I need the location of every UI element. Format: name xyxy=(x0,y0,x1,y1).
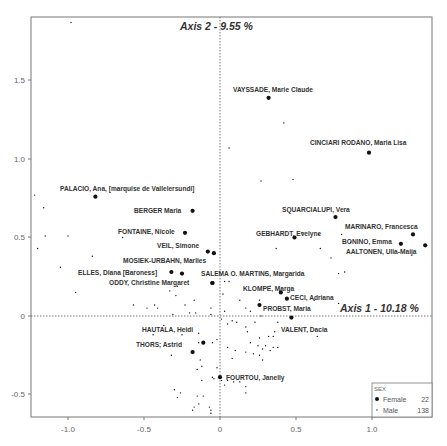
male-point xyxy=(175,295,176,296)
male-point xyxy=(122,237,123,238)
male-point xyxy=(224,311,225,312)
point-label: VEIL, Simone xyxy=(157,242,199,250)
female-point xyxy=(289,316,293,320)
male-point xyxy=(200,359,201,360)
scatter-chart: 1.5 1.0 0.5 0 -0.5 -1.0 -0.5 0 0.5 1.0 A… xyxy=(0,0,447,446)
male-point xyxy=(45,235,46,236)
point-label: FOURTOU, Janelly xyxy=(226,374,285,382)
male-point xyxy=(181,334,182,335)
point-label: VAYSSADE, Marie Claude xyxy=(233,86,313,94)
male-point xyxy=(283,122,284,123)
female-point xyxy=(206,250,210,254)
male-point xyxy=(198,342,199,343)
point-label: BONINO, Emma xyxy=(342,238,392,246)
male-point xyxy=(210,413,211,414)
point-label: BERGER Maria xyxy=(134,207,182,214)
legend-male-label: Male xyxy=(383,407,398,414)
male-point xyxy=(157,307,158,308)
male-point xyxy=(260,315,261,316)
male-point xyxy=(224,384,225,385)
male-point xyxy=(232,358,233,359)
male-point xyxy=(210,307,211,308)
male-point xyxy=(268,336,269,337)
male-point xyxy=(210,314,211,315)
point-label: THORS; Astrid xyxy=(136,341,182,349)
male-point xyxy=(221,318,222,319)
male-point xyxy=(177,397,178,398)
male-point xyxy=(338,303,339,304)
male-point xyxy=(212,377,213,378)
male-point xyxy=(250,342,251,343)
male-point xyxy=(260,180,261,181)
male-point xyxy=(222,293,223,294)
male-point xyxy=(277,347,278,348)
female-marker-icon xyxy=(375,397,379,401)
legend: SEX Female 22 Male 138 xyxy=(372,383,432,417)
female-point xyxy=(257,303,261,307)
male-point xyxy=(133,304,134,305)
male-point xyxy=(197,395,198,396)
male-point xyxy=(174,389,175,390)
male-point xyxy=(154,304,155,305)
male-point xyxy=(75,292,76,293)
male-point xyxy=(245,386,246,387)
legend-male-count: 138 xyxy=(417,407,429,414)
legend-female-label: Female xyxy=(383,396,406,403)
point-label: MOSIEK-URBAHN, Marlies xyxy=(123,257,206,265)
male-point xyxy=(276,248,277,249)
male-point xyxy=(245,307,246,308)
x-tick-label: 0.5 xyxy=(290,425,302,434)
male-point xyxy=(172,314,173,315)
x-tick-label: -0.5 xyxy=(137,425,151,434)
female-point xyxy=(423,243,427,247)
male-point xyxy=(203,395,204,396)
female-point xyxy=(267,96,271,100)
point-label: FONTAINE, Nicole xyxy=(118,228,175,236)
male-point xyxy=(273,336,274,337)
male-point xyxy=(216,367,217,368)
male-point xyxy=(341,234,342,235)
male-point xyxy=(239,381,240,382)
female-point xyxy=(218,375,222,379)
male-point xyxy=(320,248,321,249)
male-point xyxy=(236,322,237,323)
axis1-title: Axis 1 - 10.18 % xyxy=(339,302,419,314)
male-point xyxy=(212,342,213,343)
male-point xyxy=(239,300,240,301)
male-point xyxy=(171,355,172,356)
male-point xyxy=(274,331,275,332)
male-point xyxy=(201,380,202,381)
male-point xyxy=(209,406,210,407)
plot-frame xyxy=(31,17,432,417)
point-label: KLOMPE, Marga xyxy=(243,285,295,293)
male-point xyxy=(216,339,217,340)
male-point xyxy=(198,403,199,404)
male-point xyxy=(70,22,71,23)
male-point xyxy=(224,281,225,282)
male-point xyxy=(277,322,278,323)
male-point xyxy=(262,359,263,360)
male-point xyxy=(37,248,38,249)
point-label: GEBHARDT, Evelyne xyxy=(256,230,322,238)
point-label: SALEMA O. MARTINS, Margarida xyxy=(201,270,305,278)
point-label: PROBST, Maria xyxy=(263,305,311,313)
point-label: SQUARCIALUPI, Vera xyxy=(282,206,350,214)
male-point xyxy=(184,304,185,305)
male-point xyxy=(245,326,246,327)
male-point xyxy=(180,392,181,393)
male-point xyxy=(221,380,222,381)
female-point xyxy=(411,232,415,236)
female-point xyxy=(201,341,205,345)
axis2-title: Axis 2 - 9.55 % xyxy=(179,20,254,32)
male-point xyxy=(292,179,293,180)
male-point xyxy=(228,281,229,282)
legend-female-count: 22 xyxy=(421,396,429,403)
male-point xyxy=(213,378,214,379)
male-point xyxy=(169,290,170,291)
male-point xyxy=(235,350,236,351)
female-point xyxy=(93,195,97,199)
female-point xyxy=(169,270,173,274)
male-point xyxy=(192,410,193,411)
male-point xyxy=(197,369,198,370)
male-point xyxy=(247,331,248,332)
